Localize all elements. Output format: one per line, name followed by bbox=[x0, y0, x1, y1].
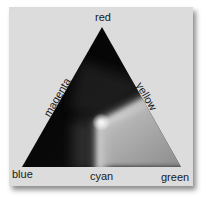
vertex-label-green: green bbox=[161, 172, 189, 183]
figure: red blue green cyan magenta yellow bbox=[0, 0, 206, 201]
vertex-label-red: red bbox=[95, 12, 111, 23]
edge-label-cyan: cyan bbox=[90, 171, 113, 182]
vertex-label-blue: blue bbox=[12, 169, 33, 180]
ridge-junction bbox=[92, 113, 110, 131]
